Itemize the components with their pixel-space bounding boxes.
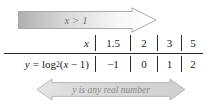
formula-equals: = bbox=[30, 58, 42, 70]
table-cell-y-1: 0 bbox=[131, 55, 157, 73]
table-cell-y-0: −1 bbox=[96, 55, 130, 73]
table-row-label-x: x bbox=[4, 34, 93, 52]
range-banner-arrow: y is any real number bbox=[36, 78, 186, 101]
table-cell-x-2: 3 bbox=[158, 34, 181, 52]
table-row-label-y: y = log2(x−1) bbox=[4, 55, 93, 73]
log-function-table-figure: x > 1 x y = log2(x−1) 1.5 −1 2 0 3 1 5 bbox=[0, 0, 207, 105]
value-table: x y = log2(x−1) 1.5 −1 2 0 3 1 5 2 bbox=[4, 33, 204, 75]
table-cell-y-2: 1 bbox=[158, 55, 181, 73]
table-cell-x-0: 1.5 bbox=[96, 34, 130, 52]
table-cell-y-3: 2 bbox=[182, 55, 204, 73]
formula-minus: − bbox=[68, 58, 79, 70]
formula-paren-close: ) bbox=[85, 58, 89, 70]
range-banner-label: y is any real number bbox=[36, 78, 186, 101]
table-cell-x-1: 2 bbox=[131, 34, 157, 52]
table-horizontal-rule bbox=[4, 53, 203, 54]
formula-log: log bbox=[42, 58, 56, 70]
domain-banner-arrow: x > 1 bbox=[18, 7, 157, 33]
table-cell-x-3: 5 bbox=[182, 34, 204, 52]
domain-banner-label: x > 1 bbox=[18, 7, 134, 33]
